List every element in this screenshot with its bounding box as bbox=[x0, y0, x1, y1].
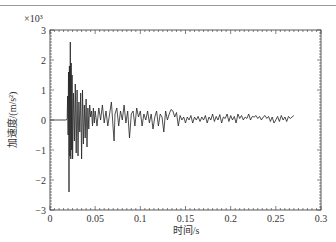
y-tick-label: 0 bbox=[41, 115, 46, 126]
x-tick-label: 0.3 bbox=[315, 213, 328, 224]
x-tick-label: 0.05 bbox=[86, 213, 104, 224]
x-axis-title: 时间/s bbox=[173, 224, 200, 236]
axis-tick-labels: 00.050.10.150.20.250.3−3−2−10123 bbox=[35, 25, 327, 225]
y-tick-label: 2 bbox=[41, 55, 46, 66]
y-tick-label: 1 bbox=[41, 85, 46, 96]
y-tick-label: −3 bbox=[35, 205, 46, 216]
x-tick-label: 0.25 bbox=[267, 213, 285, 224]
acceleration-signal-line bbox=[50, 42, 294, 192]
y-axis-title: 加速度/(m/s²) bbox=[6, 92, 19, 149]
x-tick-label: 0.1 bbox=[134, 213, 147, 224]
x-tick-label: 0 bbox=[48, 213, 53, 224]
x-tick-label: 0.15 bbox=[177, 213, 195, 224]
acceleration-time-chart: 00.050.10.150.20.250.3−3−2−10123 ×10³ 时间… bbox=[0, 0, 336, 242]
y-tick-label: 3 bbox=[41, 25, 46, 36]
plot-frame bbox=[50, 30, 321, 210]
x-tick-label: 0.2 bbox=[224, 213, 237, 224]
axis-ticks bbox=[50, 30, 321, 210]
y-tick-label: −2 bbox=[35, 175, 46, 186]
y-tick-label: −1 bbox=[35, 145, 46, 156]
y-axis-multiplier: ×10³ bbox=[24, 13, 43, 24]
